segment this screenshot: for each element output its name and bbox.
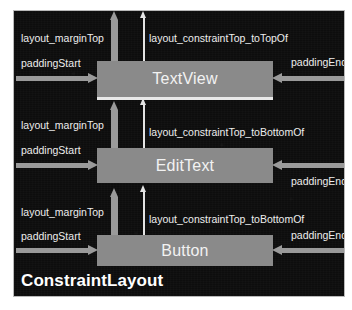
constraint-top-arrow-edittext	[140, 98, 147, 148]
label-constraint-top-button: layout_constraintTop_toBottomOf	[149, 213, 304, 225]
arrow-shaft	[111, 197, 118, 235]
arrow-head-icon	[110, 11, 118, 20]
constraint-top-arrow-textview	[140, 11, 147, 61]
widget-button[interactable]: Button	[97, 235, 273, 266]
padding-start-arrow-textview	[16, 73, 98, 84]
arrow-head-icon	[272, 245, 282, 255]
textview-baseline	[97, 97, 273, 100]
label-padding-end-textview: paddingEnd	[291, 56, 345, 68]
label-padding-end-edittext: paddingEnd	[291, 175, 345, 187]
arrow-shaft	[143, 105, 145, 148]
arrow-shaft	[16, 76, 88, 81]
diagram-canvas: layout_marginTop layout_constraintTop_to…	[0, 0, 352, 310]
label-padding-start-edittext: paddingStart	[21, 144, 81, 156]
padding-end-arrow-edittext	[272, 160, 345, 171]
arrow-shaft	[111, 20, 118, 61]
arrow-shaft	[282, 248, 345, 253]
widget-button-label: Button	[161, 242, 208, 260]
widget-edittext-label: EditText	[156, 157, 215, 175]
label-constraint-top-textview: layout_constraintTop_toTopOf	[149, 32, 288, 44]
arrow-head-icon	[110, 101, 118, 110]
arrow-head-icon	[272, 160, 282, 170]
label-padding-end-button: paddingEnd	[291, 229, 345, 241]
arrow-head-icon	[272, 73, 282, 83]
padding-start-arrow-button	[16, 245, 98, 256]
label-constraint-top-edittext: layout_constraintTop_toBottomOf	[149, 126, 304, 138]
margin-top-arrow-textview	[110, 11, 119, 61]
label-padding-start-button: paddingStart	[21, 230, 81, 242]
label-margin-top-edittext: layout_marginTop	[21, 119, 104, 131]
arrow-shaft	[16, 163, 88, 168]
arrow-shaft	[282, 76, 345, 81]
arrow-shaft	[143, 18, 145, 61]
constraint-layout-panel: layout_marginTop layout_constraintTop_to…	[13, 10, 345, 297]
arrow-head-icon	[140, 11, 146, 18]
widget-textview-label: TextView	[152, 70, 217, 88]
arrow-shaft	[111, 110, 118, 148]
padding-start-arrow-edittext	[16, 160, 98, 171]
label-padding-start-textview: paddingStart	[21, 57, 81, 69]
margin-top-arrow-edittext	[110, 101, 119, 148]
padding-end-arrow-textview	[272, 73, 345, 84]
arrow-shaft	[282, 163, 345, 168]
widget-textview[interactable]: TextView	[97, 61, 273, 97]
label-margin-top-textview: layout_marginTop	[21, 32, 104, 44]
constraint-top-arrow-button	[140, 185, 147, 235]
arrow-head-icon	[110, 188, 118, 197]
arrow-head-icon	[140, 185, 146, 192]
label-margin-top-button: layout_marginTop	[21, 206, 104, 218]
arrow-shaft	[16, 248, 88, 253]
padding-end-arrow-button	[272, 245, 345, 256]
arrow-shaft	[143, 192, 145, 235]
constraint-layout-title: ConstraintLayout	[21, 271, 163, 290]
widget-edittext[interactable]: EditText	[97, 148, 273, 183]
margin-top-arrow-button	[110, 188, 119, 235]
